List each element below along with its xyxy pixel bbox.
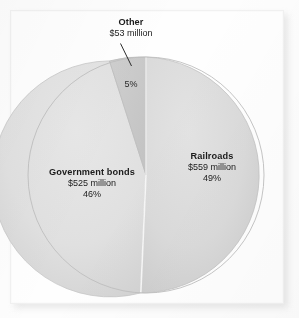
slice-label-government-bonds-percent: 46% xyxy=(28,189,156,200)
slice-label-government-bonds-name: Government bonds xyxy=(28,167,156,178)
slice-label-government-bonds-value: $525 million xyxy=(28,178,156,189)
slice-label-railroads-value: $559 million xyxy=(160,162,264,173)
slice-label-railroads-name: Railroads xyxy=(160,151,264,162)
slice-label-government-bonds: Government bonds $525 million 46% xyxy=(28,167,156,200)
slice-label-railroads-percent: 49% xyxy=(160,173,264,184)
slice-label-other-value: $53 million xyxy=(72,28,190,39)
slice-label-other-name: Other xyxy=(72,17,190,28)
slice-label-other: Other $53 million xyxy=(72,17,190,39)
slice-label-railroads: Railroads $559 million 49% xyxy=(160,151,264,184)
chart-plot-area: Other $53 million 5% Railroads $559 mill… xyxy=(0,0,299,318)
slice-percent-other: 5% xyxy=(108,79,154,89)
pie-chart-figure: Other $53 million 5% Railroads $559 mill… xyxy=(0,0,299,318)
